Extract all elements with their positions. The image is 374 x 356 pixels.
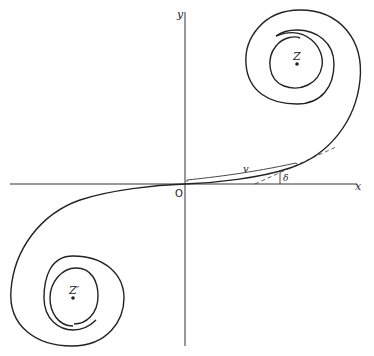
spiral-lower-branch <box>11 184 185 346</box>
point-z-prime-label: Z′ <box>68 284 80 297</box>
point-z-label: Z <box>292 50 301 63</box>
spiral-upper-branch <box>185 10 360 184</box>
arc-length-label: v <box>243 163 249 174</box>
tangent-line <box>255 147 336 184</box>
origin-label: O <box>175 188 183 199</box>
x-axis-label: x <box>355 180 362 193</box>
angle-label: δ <box>283 173 288 183</box>
cornu-spiral-diagram: y x O v δ Z Z′ <box>0 0 374 356</box>
y-axis-label: y <box>176 8 184 21</box>
